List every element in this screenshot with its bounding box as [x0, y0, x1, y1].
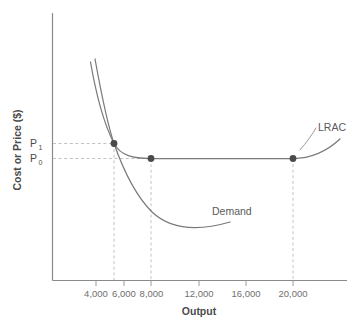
x-axis-title: Output — [182, 305, 217, 317]
p0-label-subscript: 0 — [39, 159, 43, 166]
p1-label-subscript: 1 — [39, 144, 43, 151]
x-tick-label-16000: 16,000 — [231, 288, 260, 299]
x-tick-label-4000: 4,000 — [84, 288, 108, 299]
chart-container: P 1 P 0 4,000 6,000 8,000 12,000 16,000 … — [0, 0, 359, 327]
lrac-series-label: LRAC — [318, 121, 346, 133]
demand-series-label: Demand — [212, 205, 252, 217]
chart-background — [0, 0, 359, 327]
p0-point-marker — [148, 155, 155, 162]
x-tick-label-6000: 6,000 — [112, 288, 136, 299]
mes-point-marker — [290, 155, 297, 162]
economics-lrac-demand-chart: P 1 P 0 4,000 6,000 8,000 12,000 16,000 … — [0, 0, 359, 327]
p1-label: P — [30, 137, 37, 149]
x-tick-label-8000: 8,000 — [140, 288, 164, 299]
p1-point-marker — [111, 140, 118, 147]
p0-label: P — [30, 152, 37, 164]
x-tick-label-12000: 12,000 — [184, 288, 213, 299]
y-axis-title: Cost or Price ($) — [11, 109, 23, 190]
x-tick-label-20000: 20,000 — [278, 288, 307, 299]
